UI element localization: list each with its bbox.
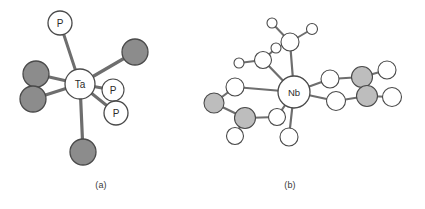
atom-X-left-upper xyxy=(23,61,49,87)
atom-X-left-lower xyxy=(235,108,256,129)
atom-Nb-center: Nb xyxy=(278,76,310,108)
atom-O-top-branch xyxy=(281,33,299,51)
atom-circle-P-right-lower xyxy=(104,101,128,125)
atom-P-top: P xyxy=(48,11,72,35)
atom-circle-Nb-center xyxy=(278,76,310,108)
atom-P-right-upper: P xyxy=(102,79,124,101)
atom-circle-X-upper-right xyxy=(122,39,148,65)
atom-circle-X-left-far xyxy=(204,93,224,113)
atom-circle-O-lower-inner xyxy=(269,109,286,126)
atom-circle-O-top-left-tip xyxy=(267,18,277,28)
atom-circle-P-top xyxy=(48,11,72,35)
atom-P-right-lower: P xyxy=(104,101,128,125)
atom-O-bottom xyxy=(280,128,298,146)
atom-O-right-lower-tip xyxy=(383,88,402,107)
atom-O-upperleft-tip-left xyxy=(234,58,244,68)
atom-O-top-right-tip xyxy=(307,24,318,35)
atom-X-left-lower xyxy=(20,86,46,112)
atoms-layer: TaPPPNb xyxy=(20,11,402,165)
molecular-structures-diagram: TaPPPNb xyxy=(0,0,425,209)
atom-O-right-lower xyxy=(327,92,346,111)
atom-O-left-bottom-tip xyxy=(227,128,244,145)
atom-circle-O-left-bottom-tip xyxy=(227,128,244,145)
atom-circle-X-left-lower xyxy=(235,108,256,129)
atom-O-upperleft-branch xyxy=(255,52,272,69)
atom-circle-O-top-branch xyxy=(281,33,299,51)
atom-circle-X-left-lower xyxy=(20,86,46,112)
caption-panel-b: (b) xyxy=(260,180,320,190)
atom-circle-O-upperleft-tip-left xyxy=(234,58,244,68)
atom-circle-P-right-upper xyxy=(102,79,124,101)
atom-O-top-left-tip xyxy=(267,18,277,28)
atom-circle-Ta-center xyxy=(65,69,95,99)
atom-X-left-far xyxy=(204,93,224,113)
atom-O-lower-inner xyxy=(269,109,286,126)
figure-root: TaPPPNb (a) (b) xyxy=(0,0,425,209)
atom-X-right-upper xyxy=(352,67,373,88)
atom-O-right-upper xyxy=(321,70,339,88)
atom-circle-X-right-upper xyxy=(352,67,373,88)
atom-X-right-lower xyxy=(357,86,378,107)
atom-O-left-upper xyxy=(226,78,244,96)
atom-circle-O-right-lower-tip xyxy=(383,88,402,107)
atom-circle-O-right-upper xyxy=(321,70,339,88)
atom-circle-O-right-lower xyxy=(327,92,346,111)
atom-X-upper-right xyxy=(122,39,148,65)
atom-circle-X-right-lower xyxy=(357,86,378,107)
atom-X-bottom xyxy=(70,139,96,165)
atom-circle-O-left-upper xyxy=(226,78,244,96)
atom-circle-O-upperleft-tip-up xyxy=(271,43,281,53)
atom-Ta-center: Ta xyxy=(65,69,95,99)
atom-circle-O-top-right-tip xyxy=(307,24,318,35)
atom-circle-O-right-upper-tip xyxy=(378,61,396,79)
caption-panel-a: (a) xyxy=(71,180,131,190)
atom-circle-X-bottom xyxy=(70,139,96,165)
atom-circle-O-bottom xyxy=(280,128,298,146)
atom-O-right-upper-tip xyxy=(378,61,396,79)
atom-circle-O-upperleft-branch xyxy=(255,52,272,69)
atom-O-upperleft-tip-up xyxy=(271,43,281,53)
atom-circle-X-left-upper xyxy=(23,61,49,87)
